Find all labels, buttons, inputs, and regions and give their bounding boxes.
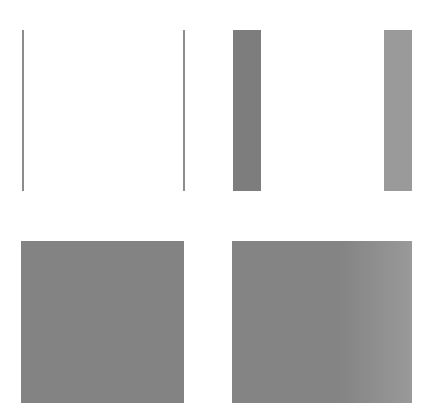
- right-vertical-line: [183, 30, 185, 191]
- solid-gray-square: [21, 241, 184, 403]
- left-vertical-line: [22, 30, 24, 191]
- light-gray-bar: [384, 30, 412, 191]
- dark-gray-bar: [233, 30, 261, 191]
- gradient-gray-rectangle: [232, 241, 412, 403]
